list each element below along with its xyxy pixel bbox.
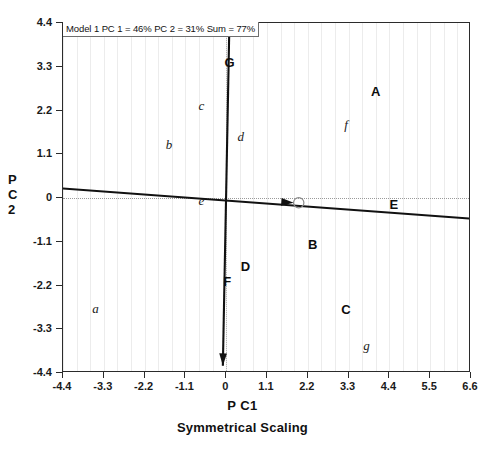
site-label-G: G (224, 55, 234, 70)
x-tick (62, 372, 63, 378)
gridline-vertical (403, 23, 404, 371)
x-tick-label: -4.4 (53, 380, 72, 392)
gridline-vertical (185, 23, 186, 371)
gridline-vertical (131, 23, 132, 371)
gridline-vertical (362, 23, 363, 371)
y-tick-label: -2.2 (33, 279, 52, 291)
gridline-vertical (158, 23, 159, 371)
plot-area: ABCDEFGabcdefg (62, 22, 470, 372)
y-tick (56, 197, 62, 198)
site-label-C: C (341, 301, 350, 316)
y-axis-title-line3: 2 (8, 202, 17, 217)
gridline-vertical (430, 23, 431, 371)
x-tick (470, 372, 471, 378)
y-tick-label: 4.4 (37, 16, 52, 28)
gridline-vertical (376, 23, 377, 371)
x-tick (429, 372, 430, 378)
gridline-vertical (172, 23, 173, 371)
y-tick (56, 372, 62, 373)
y-tick-label: 0 (46, 191, 52, 203)
gridline-vertical (335, 23, 336, 371)
species-label-c: c (198, 98, 204, 114)
site-label-A: A (371, 84, 380, 99)
species-label-f: f (344, 117, 348, 133)
site-label-F: F (223, 273, 231, 288)
x-tick-label: 0 (222, 380, 228, 392)
y-tick (56, 241, 62, 242)
x-tick (307, 372, 308, 378)
x-tick-label: 4.4 (381, 380, 396, 392)
y-tick-label: -1.1 (33, 235, 52, 247)
gridline-vertical (90, 23, 91, 371)
y-tick-label: 1.1 (37, 147, 52, 159)
gridline-vertical (294, 23, 295, 371)
y-tick-label: 2.2 (37, 104, 52, 116)
y-tick (56, 110, 62, 111)
gridline-vertical (321, 23, 322, 371)
y-tick (56, 66, 62, 67)
x-axis-title: P C1 (0, 398, 485, 413)
chart-root: ABCDEFGabcdefg Model 1 PC 1 = 46% PC 2 =… (0, 0, 485, 450)
gridline-vertical (349, 23, 350, 371)
arrowhead-right (281, 198, 294, 206)
gridline-vertical (281, 23, 282, 371)
x-tick-label: 1.1 (258, 380, 273, 392)
gridline-vertical (457, 23, 458, 371)
vertical-reference-line (226, 23, 227, 371)
horizontal-reference-line (63, 198, 469, 199)
species-label-a: a (92, 301, 99, 317)
gridline-vertical (63, 23, 64, 371)
x-tick (388, 372, 389, 378)
x-tick-label: 5.5 (422, 380, 437, 392)
x-tick-label: -3.3 (93, 380, 112, 392)
x-tick-label: -1.1 (175, 380, 194, 392)
species-label-e: e (198, 193, 204, 209)
gridline-vertical (444, 23, 445, 371)
model-annotation: Model 1 PC 1 = 46% PC 2 = 31% Sum = 77% (63, 22, 259, 37)
x-tick-label: 6.6 (462, 380, 477, 392)
gridline-vertical (267, 23, 268, 371)
species-label-d: d (237, 129, 244, 145)
species-label-b: b (166, 137, 173, 153)
site-label-D: D (241, 259, 250, 274)
gridline-vertical (213, 23, 214, 371)
gridline-vertical (308, 23, 309, 371)
y-tick (56, 328, 62, 329)
y-tick (56, 22, 62, 23)
y-tick (56, 285, 62, 286)
gridline-vertical (117, 23, 118, 371)
species-label-g: g (363, 338, 370, 354)
y-axis-title-line2: C (8, 187, 17, 202)
y-tick-label: -3.3 (33, 322, 52, 334)
x-tick-label: 2.2 (299, 380, 314, 392)
gridline-vertical (253, 23, 254, 371)
x-tick (144, 372, 145, 378)
y-tick-label: 3.3 (37, 60, 52, 72)
gridline-vertical (240, 23, 241, 371)
x-tick (184, 372, 185, 378)
x-tick (266, 372, 267, 378)
site-label-B: B (308, 237, 317, 252)
y-axis-title-line1: P (8, 172, 17, 187)
x-tick (103, 372, 104, 378)
x-tick-label: -2.2 (134, 380, 153, 392)
site-label-E: E (390, 196, 399, 211)
gridline-vertical (77, 23, 78, 371)
x-tick (225, 372, 226, 378)
y-axis-title: P C 2 (8, 172, 17, 217)
x-tick-label: 3.3 (340, 380, 355, 392)
y-tick-label: -4.4 (33, 366, 52, 378)
gridline-vertical (145, 23, 146, 371)
gridline-vertical (104, 23, 105, 371)
chart-subtitle: Symmetrical Scaling (0, 420, 485, 435)
x-tick (348, 372, 349, 378)
y-tick (56, 153, 62, 154)
gridline-vertical (417, 23, 418, 371)
